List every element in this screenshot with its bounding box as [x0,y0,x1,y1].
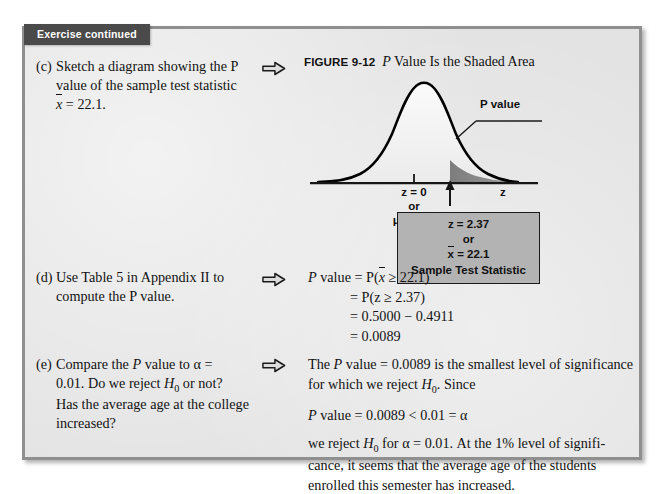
pvalue-label: P value [480,98,520,110]
part-c-prompt: (c) Sketch a diagram showing the P value… [36,57,266,114]
part-e-p2-rest: value = 0.0089 < 0.01 = α [317,407,468,423]
part-e-line3: Has the average age at the college [56,396,249,412]
part-e-p1a: The [308,356,334,372]
part-c-label: (c) [36,57,56,76]
part-e-arrow [262,358,286,373]
part-e-p3a: we reject [308,435,363,451]
part-d-prompt: (d) Use Table 5 in Appendix II to comput… [36,268,266,306]
part-d-arrow [262,272,286,287]
part-e-p3c: cance, it seems that the average age of … [308,457,596,473]
part-d-label: (d) [36,268,56,287]
part-e-p1d: . Since [437,376,476,392]
figure-caption-text: P Value Is the Shaded Area [379,54,535,69]
part-c-line2: value of the sample test statistic [56,77,237,93]
center-z-label: z = 0 [374,186,454,198]
part-e-para3: we reject H0 for α = 0.01. At the 1% lev… [308,434,633,494]
part-e-line2: 0.01. Do we reject H0 or not? [56,375,223,391]
normal-curve-svg [304,76,624,206]
part-d-eq-line3: = 0.5000 − 0.4911 [308,307,454,327]
part-d-eq1-xbar: x [379,268,385,288]
spacer-2 [308,425,633,434]
part-c-xbar: x [56,95,62,114]
callout-xbar-value: = 22.1 [454,248,490,260]
right-block-arrow-icon [262,358,286,373]
part-e-answer: The P value = 0.0089 is the smallest lev… [308,355,638,494]
part-d-P-symbol: P [308,269,317,285]
figure-number: FIGURE 9-12 [304,55,375,68]
part-e-p1b: value = 0.0089 is the smallest level of … [342,356,633,372]
part-c-line1: Sketch a diagram showing the P [56,58,238,74]
pvalue-leader-line [456,121,476,139]
part-d-eq-line2: = P(z ≥ 2.37) [308,288,454,308]
part-e-p1-H: H [421,376,431,392]
right-block-arrow-icon [262,272,286,287]
part-e-p2-P: P [308,407,317,423]
part-d-eq-line4: = 0.0089 [308,327,454,347]
part-d-eq1-rest: value = P( [317,269,379,285]
callout-xbar-symbol: x [448,247,454,262]
part-e-p3d: enrolled this semester has increased. [308,477,515,493]
part-e-label: (e) [36,355,56,374]
callout-or-line: or [398,232,539,247]
part-e-para2: P value = 0.0089 < 0.01 = α [308,406,633,426]
tab-label: Exercise continued [37,28,137,40]
part-e-prompt: (e) Compare the P value to α = 0.01. Do … [36,355,271,433]
right-block-arrow-icon [262,61,286,76]
figure-caption: FIGURE 9-12 P Value Is the Shaded Area [304,54,624,70]
part-d-line1: Use Table 5 in Appendix II to [56,269,224,285]
center-or-label: or [374,200,454,212]
figure-9-12: FIGURE 9-12 P Value Is the Shaded Area [304,54,624,274]
part-d-answer: P value = P(x ≥ 22.1) = P(z ≥ 2.37) = 0.… [308,268,628,346]
callout-z-line: z = 2.37 [398,217,539,232]
part-e-line1: Compare the P value to α = [56,356,213,372]
part-e-p3-H: H [363,435,373,451]
normal-curve-diagram: P value z z = 0 or μ = 21.3 [304,76,624,206]
part-e-p1-P: P [334,356,343,372]
callout-xbar-line: x = 22.1 [398,247,539,262]
part-d-eq1-tail: ≥ 22.1) [385,269,429,285]
part-e-para1: The P value = 0.0089 is the smallest lev… [308,355,633,397]
z-axis-label: z [500,186,506,198]
exercise-continued-tab: Exercise continued [24,24,150,45]
part-e-line4: increased? [56,415,116,431]
part-d-line2: compute the P value. [56,288,174,304]
part-e-p3b: for α = 0.01. At the 1% level of signifi… [379,435,606,451]
part-d-eq-line1: P value = P(x ≥ 22.1) [308,268,454,288]
part-e-p1c: for which we reject [308,376,421,392]
spacer-1 [308,397,633,406]
part-c-arrow [262,61,286,76]
part-c-line3-rest: = 22.1. [62,96,105,112]
